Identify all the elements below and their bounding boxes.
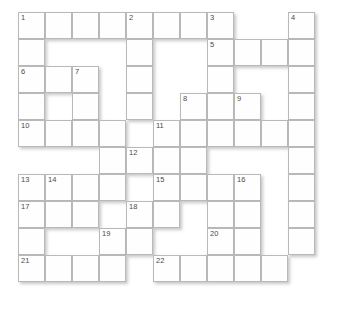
crossword-cell[interactable] xyxy=(153,147,180,174)
crossword-cell-numbered[interactable]: 2 xyxy=(126,12,153,39)
crossword-cell[interactable] xyxy=(126,39,153,66)
crossword-cell[interactable] xyxy=(126,93,153,120)
crossword-cell[interactable] xyxy=(288,66,315,93)
crossword-cell[interactable] xyxy=(45,201,72,228)
crossword-cell[interactable] xyxy=(234,120,261,147)
crossword-cell[interactable] xyxy=(72,174,99,201)
crossword-cell[interactable] xyxy=(234,201,261,228)
crossword-cell-numbered[interactable]: 17 xyxy=(18,201,45,228)
cell-number: 13 xyxy=(21,175,29,185)
crossword-cell[interactable] xyxy=(207,255,234,282)
crossword-cell-numbered[interactable]: 1 xyxy=(18,12,45,39)
cell-number: 11 xyxy=(156,121,164,131)
crossword-cell-numbered[interactable]: 5 xyxy=(207,39,234,66)
crossword-cell[interactable] xyxy=(234,255,261,282)
crossword-cell[interactable] xyxy=(99,12,126,39)
crossword-cell[interactable] xyxy=(99,147,126,174)
cell-number: 6 xyxy=(21,67,25,77)
crossword-cell[interactable] xyxy=(153,12,180,39)
crossword-cell-numbered[interactable]: 4 xyxy=(288,12,315,39)
crossword-cell-numbered[interactable]: 21 xyxy=(18,255,45,282)
cell-number: 19 xyxy=(102,229,110,239)
crossword-cell[interactable] xyxy=(72,120,99,147)
cell-number: 9 xyxy=(237,94,241,104)
crossword-cell-numbered[interactable]: 10 xyxy=(18,120,45,147)
crossword-cell-numbered[interactable]: 19 xyxy=(99,228,126,255)
crossword-cell[interactable] xyxy=(261,39,288,66)
crossword-grid[interactable]: 12345678910111213141516171819202122 xyxy=(0,0,341,315)
crossword-cell[interactable] xyxy=(180,147,207,174)
crossword-cell[interactable] xyxy=(207,93,234,120)
cell-number: 5 xyxy=(210,40,214,50)
crossword-cell[interactable] xyxy=(45,66,72,93)
cell-number: 12 xyxy=(129,148,137,158)
crossword-cell[interactable] xyxy=(45,12,72,39)
crossword-cell[interactable] xyxy=(72,201,99,228)
crossword-cell[interactable] xyxy=(288,174,315,201)
crossword-cell[interactable] xyxy=(18,93,45,120)
cell-number: 4 xyxy=(291,13,295,23)
crossword-cell-numbered[interactable]: 22 xyxy=(153,255,180,282)
crossword-cell-numbered[interactable]: 20 xyxy=(207,228,234,255)
crossword-cell-numbered[interactable]: 14 xyxy=(45,174,72,201)
crossword-cell[interactable] xyxy=(99,120,126,147)
crossword-cell[interactable] xyxy=(180,174,207,201)
crossword-cell-numbered[interactable]: 15 xyxy=(153,174,180,201)
crossword-cell[interactable] xyxy=(180,120,207,147)
cell-number: 16 xyxy=(237,175,245,185)
crossword-cell[interactable] xyxy=(288,201,315,228)
crossword-cell[interactable] xyxy=(153,201,180,228)
crossword-cell[interactable] xyxy=(234,228,261,255)
cell-number: 18 xyxy=(129,202,137,212)
crossword-cell[interactable] xyxy=(18,228,45,255)
crossword-cell[interactable] xyxy=(180,255,207,282)
cell-number: 10 xyxy=(21,121,29,131)
crossword-cell[interactable] xyxy=(234,39,261,66)
crossword-cell-numbered[interactable]: 9 xyxy=(234,93,261,120)
crossword-cell[interactable] xyxy=(72,93,99,120)
cell-number: 21 xyxy=(21,256,29,266)
crossword-cell[interactable] xyxy=(18,39,45,66)
crossword-cell-numbered[interactable]: 8 xyxy=(180,93,207,120)
crossword-cell-numbered[interactable]: 13 xyxy=(18,174,45,201)
crossword-cell[interactable] xyxy=(261,255,288,282)
crossword-cell-numbered[interactable]: 7 xyxy=(72,66,99,93)
crossword-cell-numbered[interactable]: 11 xyxy=(153,120,180,147)
crossword-cell[interactable] xyxy=(207,174,234,201)
cell-number: 15 xyxy=(156,175,164,185)
crossword-cell[interactable] xyxy=(261,120,288,147)
crossword-cell[interactable] xyxy=(288,147,315,174)
crossword-cell[interactable] xyxy=(288,228,315,255)
crossword-cell[interactable] xyxy=(207,66,234,93)
cell-number: 3 xyxy=(210,13,214,23)
crossword-cell[interactable] xyxy=(45,255,72,282)
crossword-cell-numbered[interactable]: 3 xyxy=(207,12,234,39)
crossword-cell-numbered[interactable]: 12 xyxy=(126,147,153,174)
crossword-cell[interactable] xyxy=(99,255,126,282)
crossword-cell[interactable] xyxy=(72,12,99,39)
crossword-cell[interactable] xyxy=(45,120,72,147)
crossword-cell[interactable] xyxy=(288,120,315,147)
crossword-cell[interactable] xyxy=(180,12,207,39)
crossword-cell[interactable] xyxy=(99,174,126,201)
crossword-cell[interactable] xyxy=(288,39,315,66)
cell-number: 1 xyxy=(21,13,25,23)
crossword-cell[interactable] xyxy=(207,201,234,228)
cell-number: 14 xyxy=(48,175,56,185)
cell-number: 2 xyxy=(129,13,133,23)
cell-number: 20 xyxy=(210,229,218,239)
cell-number: 22 xyxy=(156,256,164,266)
crossword-cell-numbered[interactable]: 16 xyxy=(234,174,261,201)
cell-number: 7 xyxy=(75,67,79,77)
crossword-cell[interactable] xyxy=(207,120,234,147)
crossword-cell-numbered[interactable]: 6 xyxy=(18,66,45,93)
crossword-puzzle: 12345678910111213141516171819202122 xyxy=(0,0,341,315)
crossword-cell[interactable] xyxy=(126,228,153,255)
cell-number: 17 xyxy=(21,202,29,212)
crossword-cell[interactable] xyxy=(72,255,99,282)
crossword-cell-numbered[interactable]: 18 xyxy=(126,201,153,228)
crossword-cell[interactable] xyxy=(126,66,153,93)
crossword-cell[interactable] xyxy=(288,93,315,120)
cell-number: 8 xyxy=(183,94,187,104)
